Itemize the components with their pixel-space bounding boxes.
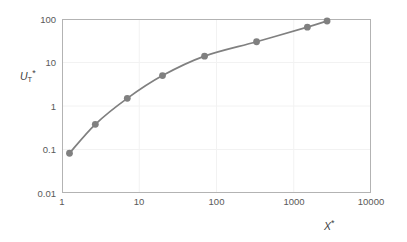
- data-point: [324, 18, 331, 25]
- data-point: [92, 121, 99, 128]
- y-tick-label-0.1: 0.1: [22, 145, 56, 155]
- y-tick-label-100: 100: [22, 15, 56, 25]
- data-point: [201, 53, 208, 60]
- chart-figure: 100 10 1 0.1 0.01 1 10 100 1000 10000 UT…: [0, 0, 407, 242]
- x-tick-label-10: 10: [119, 197, 159, 207]
- data-point: [159, 72, 166, 79]
- y-axis-title-superscript: *: [32, 68, 36, 78]
- y-tick-label-10: 10: [22, 58, 56, 68]
- x-tick-label-10000: 10000: [351, 197, 391, 207]
- x-axis-title-superscript: *: [331, 218, 335, 228]
- data-point: [253, 38, 260, 45]
- y-tick-label-1: 1: [22, 102, 56, 112]
- x-tick-label-1000: 1000: [274, 197, 314, 207]
- x-tick-label-100: 100: [197, 197, 237, 207]
- x-tick-label-1: 1: [42, 197, 82, 207]
- data-point: [66, 150, 73, 157]
- y-axis-title: UT*: [20, 71, 36, 82]
- data-point: [124, 95, 131, 102]
- y-axis-title-base: U: [20, 70, 28, 82]
- x-axis-title-base: X: [324, 220, 331, 232]
- x-axis-title: X*: [324, 221, 335, 232]
- data-point: [304, 24, 311, 31]
